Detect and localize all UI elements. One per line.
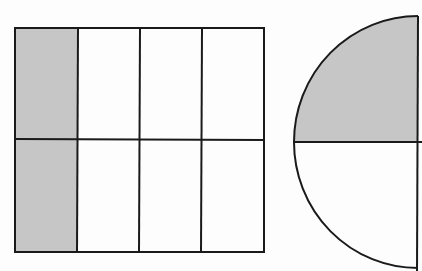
- rectangle-fraction-model: [15, 28, 264, 252]
- shaded-quarter: [294, 16, 418, 142]
- semicircle-diameter: [417, 16, 418, 271]
- row-divider: [15, 139, 264, 140]
- fraction-diagram: [0, 0, 422, 271]
- semicircle-fraction-model: [294, 16, 422, 271]
